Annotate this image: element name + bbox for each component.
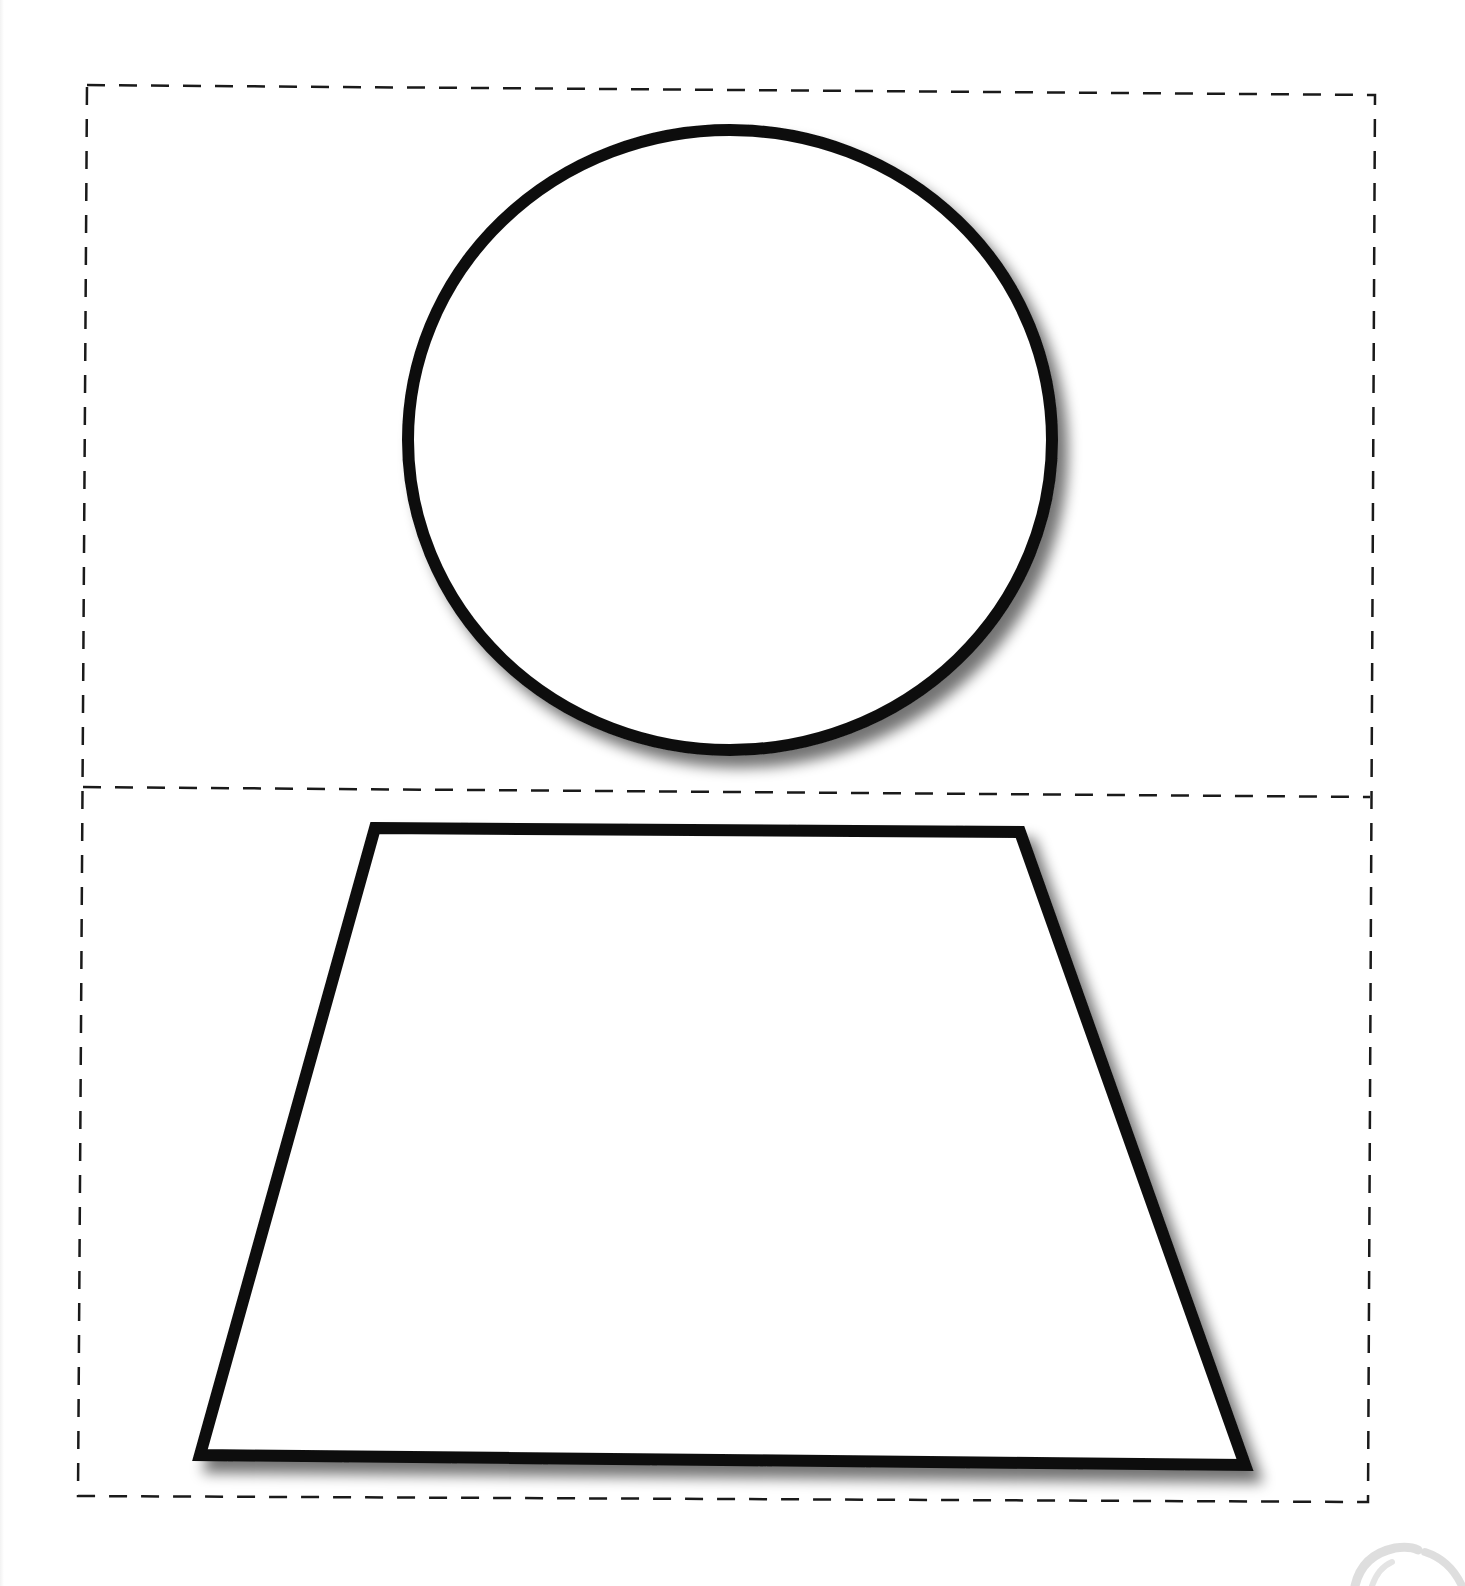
circle-shape[interactable] bbox=[408, 130, 1052, 750]
bottom-panel bbox=[200, 828, 1245, 1465]
watermark-logo-icon bbox=[1355, 1547, 1462, 1586]
diagram-canvas bbox=[0, 0, 1465, 1586]
panel-divider-dashed-line bbox=[83, 787, 1370, 797]
trapezoid-shape[interactable] bbox=[200, 828, 1245, 1465]
top-panel bbox=[408, 130, 1052, 750]
